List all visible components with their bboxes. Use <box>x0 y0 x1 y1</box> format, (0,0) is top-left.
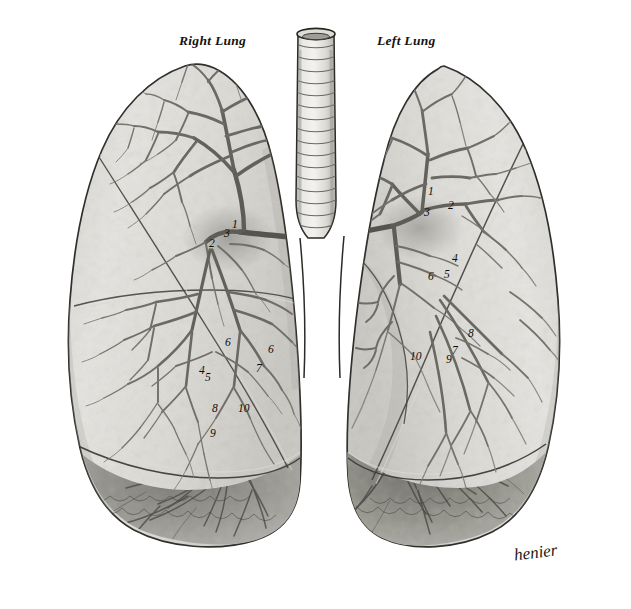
left-lung-number-5: 5 <box>444 269 450 281</box>
left-lung <box>302 46 570 568</box>
right-lung-number-6a: 6 <box>225 337 231 349</box>
left-lung-number-6: 6 <box>428 271 434 283</box>
right-lung-number-3: 3 <box>224 228 230 240</box>
left-lung-number-4: 4 <box>452 253 458 265</box>
right-lung-number-2: 2 <box>209 238 215 250</box>
right-lung-number-4: 4 <box>199 365 205 377</box>
left-lung-number-9: 9 <box>446 354 452 366</box>
left-lung-number-7: 7 <box>452 345 458 357</box>
right-lung-number-10: 10 <box>238 403 250 415</box>
trachea <box>296 28 336 238</box>
lungs-illustration <box>0 0 631 609</box>
right-lung-number-9: 9 <box>210 428 216 440</box>
left-lung-title: Left Lung <box>377 33 436 49</box>
left-lung-number-2: 2 <box>448 200 454 212</box>
right-lung-number-8: 8 <box>212 403 218 415</box>
anatomical-plate: Right Lung Left Lung 1 2 3 4 5 6 6 7 8 9… <box>0 0 631 609</box>
left-lung-number-8: 8 <box>468 328 474 340</box>
right-lung <box>60 42 320 570</box>
trachea-lumen <box>303 33 330 39</box>
right-lung-number-5: 5 <box>205 372 211 384</box>
mediastinal-borders <box>300 236 344 378</box>
right-lung-title: Right Lung <box>179 33 246 49</box>
right-lung-number-7: 7 <box>256 363 262 375</box>
left-lung-number-1: 1 <box>428 186 434 198</box>
left-lung-number-3: 3 <box>424 207 430 219</box>
left-lung-number-10: 10 <box>410 351 422 363</box>
right-lung-number-6b: 6 <box>268 344 274 356</box>
right-lung-number-1: 1 <box>232 219 238 231</box>
